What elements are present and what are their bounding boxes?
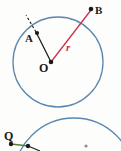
point-dot-b xyxy=(89,7,94,12)
point-dot-a xyxy=(35,31,39,35)
point-label-a: A xyxy=(25,33,33,44)
radius-line-ob xyxy=(51,10,91,62)
point-label-o: O xyxy=(39,62,48,74)
point-label-b: B xyxy=(95,5,102,16)
point-dot-o xyxy=(49,60,54,65)
point-dot-cropped xyxy=(84,144,87,147)
tangent-line-q xyxy=(11,144,28,146)
main-circle xyxy=(13,17,103,107)
point-label-q: Q xyxy=(4,130,13,142)
point-dot-tangent xyxy=(26,144,30,148)
figure-canvas xyxy=(0,0,121,151)
segment-line-oa xyxy=(37,34,51,62)
top-circle-group xyxy=(13,17,103,107)
radius-label-r: r xyxy=(66,42,70,53)
geometry-figure: A B O r Q xyxy=(0,0,121,151)
